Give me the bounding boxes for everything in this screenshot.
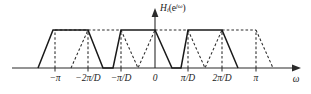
tick-label-neg-pi: −π — [49, 73, 60, 83]
tick-label-pi-over-d: π/D — [181, 73, 195, 83]
omega-axis-arrowhead — [292, 65, 301, 72]
replica-slope-a — [71, 30, 88, 68]
frequency-response-figure: Hi(ejω) −π −2π/D −π/D 0 π/D 2π/D π ω — [0, 0, 311, 94]
replica-triangle-neg — [121, 30, 155, 68]
y-axis-label-arg-open: (e — [169, 3, 176, 13]
magnitude-axis — [152, 8, 159, 68]
magnitude-axis-arrowhead — [152, 8, 159, 17]
replica-triangle-pos — [188, 30, 222, 68]
tick-label-2pi-over-d: 2π/D — [212, 73, 231, 83]
tick-label-pi: π — [254, 73, 259, 83]
tick-label-neg-pi-over-d: −π/D — [111, 73, 132, 83]
replica-slope-b — [256, 30, 273, 68]
x-axis-title: ω — [293, 74, 300, 84]
y-axis-label-arg-close: ) — [182, 3, 185, 13]
tick-label-neg-2pi-over-d: −2π/D — [75, 73, 100, 83]
y-axis-label: Hi(ejω) — [160, 2, 186, 13]
tick-label-zero: 0 — [153, 73, 158, 83]
y-axis-label-base: H — [160, 3, 167, 13]
